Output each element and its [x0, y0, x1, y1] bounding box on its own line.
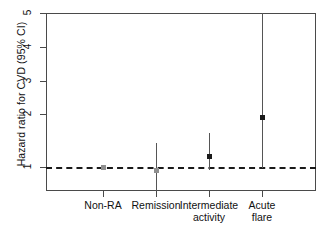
y-axis-title: Hazard ratio for CVD (95% CI)	[15, 9, 27, 179]
point-estimate-acute-flare	[260, 115, 265, 120]
y-tick-label-2: 2	[22, 103, 33, 125]
y-tick-label-3: 3	[22, 70, 33, 92]
y-tick-label-5: 5	[22, 2, 33, 24]
ci-whisker-acute-flare	[262, 13, 263, 168]
y-tick-label-4: 4	[22, 36, 33, 58]
point-estimate-intermediate	[207, 154, 212, 159]
point-estimate-non-ra	[101, 165, 106, 170]
ci-whisker-intermediate	[209, 133, 210, 170]
point-estimate-remission	[154, 168, 159, 173]
x-tick-mark-remission	[156, 191, 157, 197]
x-tick-label-acute-flare: Acute flare	[232, 199, 292, 223]
x-tick-mark-non-ra	[103, 191, 104, 197]
x-tick-mark-intermediate	[209, 191, 210, 197]
y-tick-label-1: 1	[22, 156, 33, 178]
forest-plot-figure: Hazard ratio for CVD (95% CI) 5 4 3 2 1 …	[0, 0, 329, 235]
plot-area	[46, 13, 316, 191]
reference-line-hr-1	[46, 167, 316, 169]
x-tick-mark-acute-flare	[262, 191, 263, 197]
